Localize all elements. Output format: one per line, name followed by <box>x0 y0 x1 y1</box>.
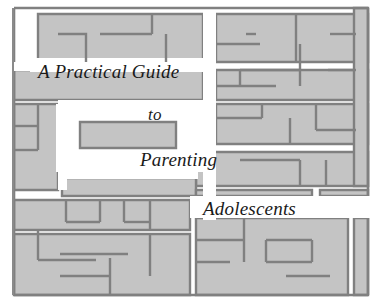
maze-illustration <box>0 0 382 305</box>
maze-inner-island <box>80 122 176 148</box>
left-edge-rule <box>12 8 14 295</box>
book-cover: A Practical Guide to Parenting Adolescen… <box>0 0 382 305</box>
